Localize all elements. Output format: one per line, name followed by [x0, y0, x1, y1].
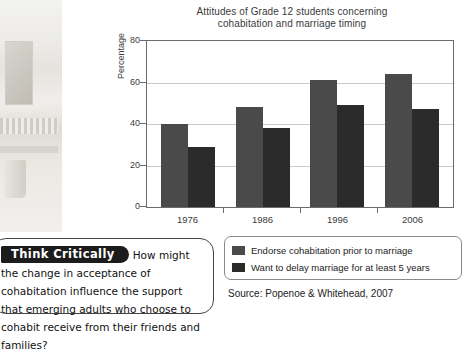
chart-legend: Endorse cohabitation prior to marriage W… — [224, 236, 462, 280]
y-tick-label-60: 60 — [130, 77, 140, 87]
photo-rail-shape — [0, 118, 58, 134]
source-note: Source: Popenoe & Whitehead, 2007 — [228, 288, 393, 299]
bar — [236, 107, 263, 207]
x-axis-label: 1996 — [309, 214, 367, 225]
photo-ledge-shape — [0, 146, 58, 153]
bar — [337, 105, 364, 207]
bar — [412, 109, 439, 207]
think-critically-box: Think CriticallyHow might the change in … — [0, 238, 214, 314]
chart-title: Attitudes of Grade 12 students concernin… — [118, 2, 466, 30]
bar-groups — [147, 41, 453, 207]
y-tick-label-80: 80 — [130, 35, 140, 45]
bar — [385, 74, 412, 207]
bar-group — [310, 41, 364, 207]
chart-panel: Attitudes of Grade 12 students concernin… — [118, 2, 466, 230]
think-critically-badge: Think Critically — [1, 246, 129, 263]
bar — [310, 80, 337, 207]
legend-label-endorse: Endorse cohabitation prior to marriage — [251, 245, 413, 256]
plot-wrapper: Percentage 80 60 40 20 0 197619861996200… — [118, 34, 466, 230]
background-photo-strip — [0, 0, 62, 232]
legend-swatch-delay — [232, 263, 245, 272]
bar-group — [236, 41, 290, 207]
x-axis: 1976198619962006 — [146, 208, 454, 230]
x-axis-tick-marks — [146, 208, 454, 213]
y-axis-ticks: 80 60 40 20 0 — [118, 34, 146, 212]
x-tick-mark — [300, 208, 301, 213]
bar-group — [161, 41, 215, 207]
y-tick-label-20: 20 — [130, 160, 140, 170]
think-critically-question: How might the change in acceptance of co… — [1, 249, 200, 351]
bar-group — [385, 41, 439, 207]
x-axis-label: 1976 — [159, 214, 217, 225]
legend-item-endorse: Endorse cohabitation prior to marriage — [232, 242, 454, 259]
x-tick-mark — [377, 208, 378, 213]
photo-cup-shape — [4, 160, 26, 198]
legend-swatch-endorse — [232, 246, 245, 255]
photo-frame-shape — [6, 42, 32, 104]
x-axis-label: 1986 — [234, 214, 292, 225]
legend-item-delay: Want to delay marriage for at least 5 ye… — [232, 259, 454, 276]
x-tick-mark — [223, 208, 224, 213]
x-axis-label: 2006 — [384, 214, 442, 225]
x-axis-labels: 1976198619962006 — [146, 214, 454, 225]
plot-area — [146, 40, 454, 208]
bar — [188, 147, 215, 207]
bar — [161, 124, 188, 207]
bar — [263, 128, 290, 207]
legend-label-delay: Want to delay marriage for at least 5 ye… — [251, 262, 430, 273]
y-tick-label-40: 40 — [130, 118, 140, 128]
